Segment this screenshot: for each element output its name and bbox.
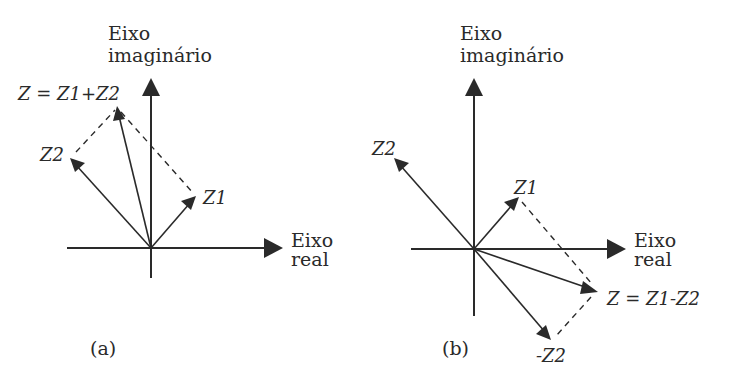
panel-a-caption: (a) [90,337,116,359]
vector-z1 [151,196,196,248]
complex-vector-diagram: Eixo imaginário Eixo real Z = Z1+Z2 Z2 Z… [0,0,733,376]
vector-z1-label: Z1 [513,177,538,198]
vector-z2-arrowhead-icon [394,158,409,172]
imaginary-axis-label-line2: imaginário [460,44,564,66]
vector-minus-z2-label: -Z2 [536,345,566,366]
imaginary-axis-label-line2: imaginário [108,44,212,66]
imaginary-axis-arrowhead-icon [142,78,160,96]
vector-z2-label: Z2 [371,138,396,159]
real-axis-label-line2: real [634,248,672,270]
vector-minus-z2-arrowhead-icon [536,325,551,340]
imaginary-axis-arrowhead-icon [465,78,483,96]
panel-b: Eixo imaginário Eixo real Z2 Z1 Z = Z1-Z… [371,22,700,366]
dashed-guide-z-to-minus-z2 [556,297,591,336]
dashed-guide-z2-to-z [76,110,115,152]
imaginary-axis [465,78,483,316]
panel-a: Eixo imaginário Eixo real Z = Z1+Z2 Z2 Z… [17,22,333,359]
vector-z2-arrowhead-icon [70,158,85,172]
vector-z-sum-label: Z = Z1+Z2 [17,83,120,104]
real-axis-arrowhead-icon [607,239,626,259]
vector-z1-arrowhead-icon [504,197,519,211]
imaginary-axis-label-line1: Eixo [460,22,502,44]
real-axis-label-line2: real [291,248,329,270]
vector-z2 [394,158,474,249]
real-axis [67,238,283,258]
imaginary-axis-label-line1: Eixo [108,22,150,44]
vector-z-difference-label: Z = Z1-Z2 [606,288,700,309]
vector-z-difference-arrowhead-icon [580,281,598,294]
vector-z2 [70,158,151,248]
vector-z1-label: Z1 [202,187,227,208]
vector-z2-label: Z2 [39,144,64,165]
dashed-guide-z1-to-z [522,202,592,284]
real-axis-arrowhead-icon [264,238,283,258]
vector-z1-arrowhead-icon [181,196,196,210]
dashed-guide-z-to-z1 [121,112,194,194]
vector-z1 [474,197,519,249]
real-axis [411,239,626,259]
panel-b-caption: (b) [442,337,469,359]
